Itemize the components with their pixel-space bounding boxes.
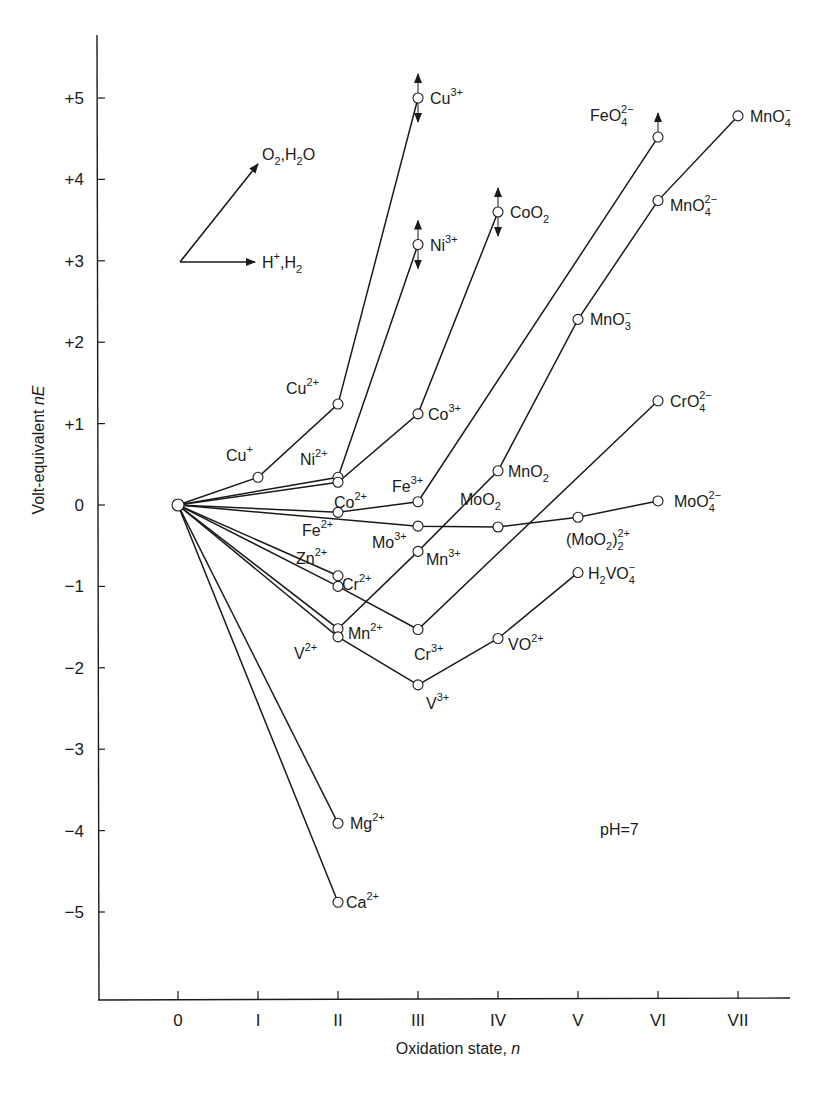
x-tick-label: V: [572, 1011, 584, 1030]
axes: +5+4+3+2+10−1−2−3−4−50IIIIIIIVVVIVII: [65, 35, 790, 1030]
species-label: Cu+​: [226, 443, 253, 464]
data-point: [413, 240, 423, 250]
reference-arrows: O2​,H2​O H+​,H2​: [180, 146, 315, 275]
species-label: MnO2​: [508, 463, 549, 484]
data-point: [573, 314, 583, 324]
species-label: Cu3+​: [430, 86, 463, 107]
species-label: MnO4−​: [750, 104, 791, 129]
x-tick-label: III: [411, 1011, 425, 1030]
species-label: MnO3−​: [590, 307, 631, 332]
species-label: Co2+​: [334, 490, 367, 511]
data-point: [493, 466, 503, 476]
species-label: H2​VO4−​: [588, 561, 635, 586]
data-point: [493, 633, 503, 643]
data-point: [333, 897, 343, 907]
species-label: V3+​: [426, 691, 449, 712]
data-point: [413, 497, 423, 507]
y-tick-label: −3: [65, 740, 84, 759]
species-label: Cu2+​: [286, 376, 319, 397]
x-tick-label: IV: [490, 1011, 507, 1030]
y-tick-label: −1: [65, 577, 84, 596]
data-point: [573, 568, 583, 578]
data-point: [333, 632, 343, 642]
data-point: [413, 680, 423, 690]
x-axis-title: Oxidation state, n: [396, 1040, 521, 1057]
x-tick-label: 0: [173, 1011, 182, 1030]
species-label: V2+​: [294, 641, 317, 662]
species-label: Mg2+​: [350, 811, 385, 832]
species-label: Mn2+​: [348, 621, 383, 642]
data-points: [172, 93, 743, 907]
species-label: MoO42−​: [674, 489, 721, 514]
o2-h2o-arrow-icon: [180, 164, 258, 262]
y-tick-label: +5: [65, 89, 84, 108]
data-point: [653, 196, 663, 206]
data-point: [413, 521, 423, 531]
point-labels: Cu+​Cu2+​Cu3+​Ni2+​Ni3+​Co2+​Co3+​CoO2​F…: [226, 86, 791, 911]
data-point: [413, 625, 423, 635]
species-label: MoO2​: [460, 491, 501, 512]
species-label: (MoO2​)22+​: [566, 527, 630, 552]
data-point: [653, 132, 663, 142]
x-tick-label: I: [256, 1011, 261, 1030]
data-point: [333, 818, 343, 828]
data-point: [333, 399, 343, 409]
ph-annotation: pH=7: [600, 821, 639, 838]
series-line-fe: [178, 137, 658, 512]
data-point: [573, 512, 583, 522]
x-tick-label: VII: [728, 1011, 749, 1030]
species-label: Ni2+​: [300, 447, 328, 468]
series-line-ni: [178, 245, 418, 506]
y-tick-label: +1: [65, 415, 84, 434]
species-label: CoO2​: [510, 204, 549, 225]
x-tick-label: VI: [650, 1011, 666, 1030]
y-axis-title: Volt-equivalent nE: [30, 385, 47, 514]
data-point: [413, 93, 423, 103]
species-label: Ca2+​: [346, 890, 379, 911]
h-h2-label: H+​,H2​: [262, 250, 302, 275]
data-point: [653, 396, 663, 406]
y-tick-label: +3: [65, 252, 84, 271]
data-point: [493, 522, 503, 532]
species-label: Fe3+​: [392, 474, 423, 495]
data-point: [413, 546, 423, 556]
o2-h2o-label: O2​,H2​O: [262, 146, 315, 167]
x-axis-line: [98, 998, 790, 1000]
species-label: MnO42−​: [670, 193, 717, 218]
species-label: Zn2+​: [296, 546, 327, 567]
species-label: Cr3+​: [414, 642, 443, 663]
species-label: Fe2+​: [302, 518, 333, 539]
species-label: Co3+​: [428, 402, 461, 423]
species-label: Mo3+​: [372, 530, 407, 551]
y-tick-label: −2: [65, 659, 84, 678]
y-tick-label: +4: [65, 170, 84, 189]
y-tick-label: +2: [65, 333, 84, 352]
data-point: [653, 496, 663, 506]
data-point: [493, 207, 503, 217]
data-point: [413, 409, 423, 419]
y-tick-label: 0: [75, 496, 84, 515]
species-label: CrO42−​: [670, 389, 712, 414]
y-tick-label: −4: [65, 822, 84, 841]
frost-diagram: +5+4+3+2+10−1−2−3−4−50IIIIIIIVVVIVII Cu+…: [0, 0, 840, 1096]
data-point: [733, 111, 743, 121]
y-tick-label: −5: [65, 903, 84, 922]
x-tick-label: II: [333, 1011, 342, 1030]
species-label: Ni3+​: [430, 233, 458, 254]
data-point: [333, 477, 343, 487]
species-label: VO2+​: [508, 632, 544, 653]
data-point: [172, 499, 184, 511]
data-point: [253, 472, 263, 482]
species-label: Mn3+​: [426, 547, 461, 568]
species-label: FeO42−​: [590, 103, 634, 128]
species-label: Cr2+​: [342, 572, 371, 593]
